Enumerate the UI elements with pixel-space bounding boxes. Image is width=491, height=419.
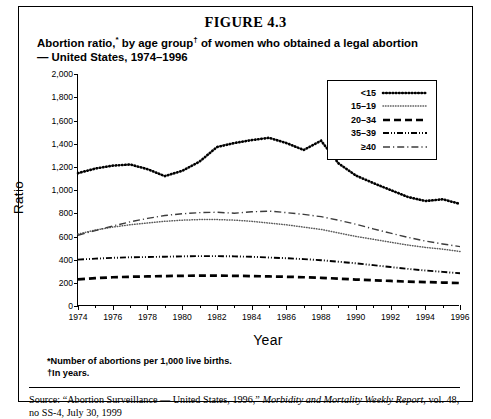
legend-label: <15 [332,88,382,98]
x-tick-mark [391,305,392,310]
x-tick-mark [234,305,235,308]
x-tick-mark [408,305,409,308]
x-tick-label: 1992 [381,312,400,322]
y-tick-mark [74,190,78,191]
x-tick-mark [321,305,322,310]
x-tick-mark [78,305,79,310]
x-tick-label: 1982 [207,312,226,322]
x-tick-label: 1974 [68,312,87,322]
note-asterisk: *Number of abortions per 1,000 live birt… [47,356,472,368]
plot-wrapper: Ratio 02004006008001,0001,2001,4001,6001… [19,64,474,326]
x-tick-mark [182,305,183,310]
x-tick-label: 1984 [242,312,261,322]
legend-label: 15–19 [332,101,382,111]
x-tick-mark [338,305,339,308]
x-tick-mark [443,305,444,308]
x-axis-title: Year [77,332,459,348]
x-tick-label: 1976 [103,312,122,322]
x-tick-mark [113,305,114,310]
y-tick-mark [74,260,78,261]
series-line [78,256,460,273]
y-tick-mark [74,121,78,122]
y-tick-mark [74,213,78,214]
figure-title-line1: Abortion ratio,* by age group† of women … [37,37,418,49]
x-tick-mark [460,305,461,310]
x-tick-mark [217,305,218,310]
x-tick-mark [147,305,148,310]
x-tick-mark [373,305,374,308]
source-publication: Morbidity and Mortality Weekly Report [262,394,423,405]
legend-swatch [382,128,430,138]
legend-item[interactable]: 20–34 [332,113,430,127]
figure-title-line2: — United States, 1974–1996 [37,51,457,65]
figure-number: FIGURE 4.3 [19,14,472,31]
legend-item[interactable]: 15–19 [332,100,430,114]
figure-container: FIGURE 4.3 Abortion ratio,* by age group… [18,6,473,402]
legend-swatch [382,115,430,125]
series-line [78,276,460,283]
legend-item[interactable]: ≥40 [332,140,430,154]
y-axis-title: Ratio [11,181,26,214]
legend-swatch [382,101,430,111]
figure-title: Abortion ratio,* by age group† of women … [37,37,457,64]
x-tick-mark [165,305,166,308]
source-divider [29,387,460,388]
legend-item[interactable]: <15 [332,86,430,100]
legend-swatch [382,88,430,98]
legend-item[interactable]: 35–39 [332,127,430,141]
x-tick-label: 1990 [346,312,365,322]
series-line [78,211,460,247]
x-tick-mark [200,305,201,308]
legend-label: ≥40 [332,142,382,152]
legend-label: 20–34 [332,115,382,125]
x-tick-mark [425,305,426,310]
chart-legend: <1515–1920–3435–39≥40 [327,80,437,160]
source-citation: Source: “Abortion Surveillance — United … [29,394,462,419]
y-tick-mark [74,97,78,98]
x-tick-label: 1988 [312,312,331,322]
x-tick-label: 1978 [138,312,157,322]
x-tick-label: 1980 [173,312,192,322]
x-tick-label: 1986 [277,312,296,322]
legend-label: 35–39 [332,128,382,138]
x-tick-label: 1996 [450,312,469,322]
x-tick-mark [130,305,131,308]
y-tick-mark [74,74,78,75]
y-tick-mark [74,144,78,145]
y-tick-mark [74,237,78,238]
x-tick-mark [356,305,357,310]
legend-swatch [382,142,430,152]
x-tick-mark [95,305,96,308]
y-tick-mark [74,167,78,168]
x-tick-label: 1994 [416,312,435,322]
x-tick-mark [252,305,253,310]
x-tick-mark [286,305,287,310]
x-tick-mark [304,305,305,308]
source-prefix: Source: “Abortion Surveillance — United … [29,394,262,405]
note-dagger: †In years. [47,368,472,380]
figure-notes: *Number of abortions per 1,000 live birt… [47,356,472,379]
x-tick-mark [269,305,270,308]
y-tick-mark [74,283,78,284]
